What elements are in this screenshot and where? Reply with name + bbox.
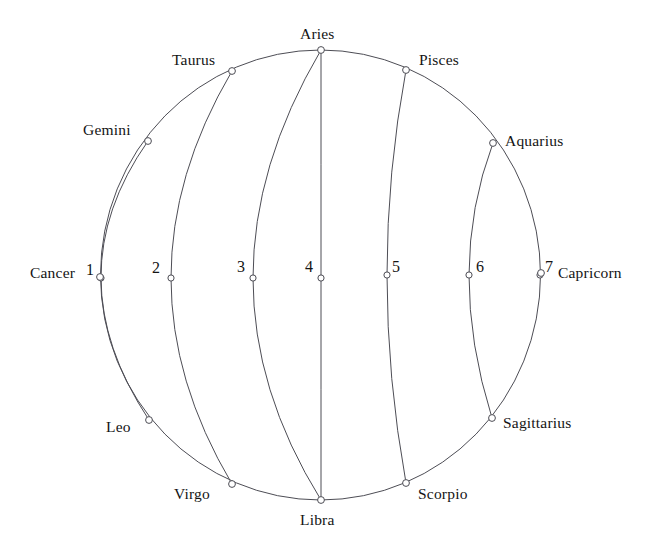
meridian-number-5: 5 bbox=[392, 259, 400, 275]
meridian-arc-6 bbox=[469, 143, 493, 418]
meridian-number-1: 1 bbox=[86, 262, 94, 278]
zodiac-marker-pisces bbox=[403, 67, 410, 74]
zodiac-marker-gemini bbox=[145, 138, 152, 145]
zodiac-label-aquarius: Aquarius bbox=[505, 133, 563, 149]
equator-marker-3 bbox=[250, 275, 256, 281]
zodiac-label-scorpio: Scorpio bbox=[418, 486, 468, 502]
zodiac-marker-taurus bbox=[229, 68, 236, 75]
equator-marker-6 bbox=[466, 272, 472, 278]
equator-marker-2 bbox=[168, 275, 174, 281]
meridian-number-7: 7 bbox=[545, 259, 553, 275]
zodiac-label-aries: Aries bbox=[300, 26, 335, 42]
meridian-arc-3 bbox=[253, 50, 321, 500]
meridian-number-2: 2 bbox=[152, 260, 160, 276]
zodiac-label-gemini: Gemini bbox=[83, 122, 131, 138]
zodiac-marker-leo bbox=[146, 417, 153, 424]
meridian-arc-1 bbox=[101, 141, 149, 420]
zodiac-marker-virgo bbox=[229, 481, 236, 488]
zodiac-marker-aries bbox=[318, 47, 325, 54]
meridian-number-6: 6 bbox=[476, 259, 484, 275]
equator-marker-5 bbox=[384, 272, 390, 278]
zodiac-label-leo: Leo bbox=[106, 419, 131, 435]
zodiac-point-markers-group bbox=[97, 47, 545, 504]
zodiac-marker-aquarius bbox=[490, 140, 497, 147]
zodiac-marker-libra bbox=[318, 497, 325, 504]
zodiac-label-capricorn: Capricorn bbox=[558, 265, 622, 281]
zodiac-marker-scorpio bbox=[403, 480, 410, 487]
zodiac-marker-cancer bbox=[97, 274, 104, 281]
zodiac-label-cancer: Cancer bbox=[30, 265, 75, 281]
zodiac-label-sagittarius: Sagittarius bbox=[503, 415, 572, 431]
zodiac-label-libra: Libra bbox=[300, 512, 335, 528]
zodiac-label-pisces: Pisces bbox=[419, 52, 459, 68]
meridian-number-3: 3 bbox=[237, 259, 245, 275]
equator-marker-4 bbox=[318, 275, 324, 281]
zodiac-label-virgo: Virgo bbox=[174, 486, 210, 502]
zodiac-marker-capricorn bbox=[538, 270, 545, 277]
zodiac-marker-sagittarius bbox=[489, 415, 496, 422]
zodiac-figure: AriesTaurusGeminiCancerLeoVirgoLibraScor… bbox=[0, 0, 660, 556]
zodiac-label-taurus: Taurus bbox=[172, 52, 215, 68]
meridian-number-4: 4 bbox=[305, 259, 313, 275]
meridian-arc-2 bbox=[171, 71, 232, 484]
